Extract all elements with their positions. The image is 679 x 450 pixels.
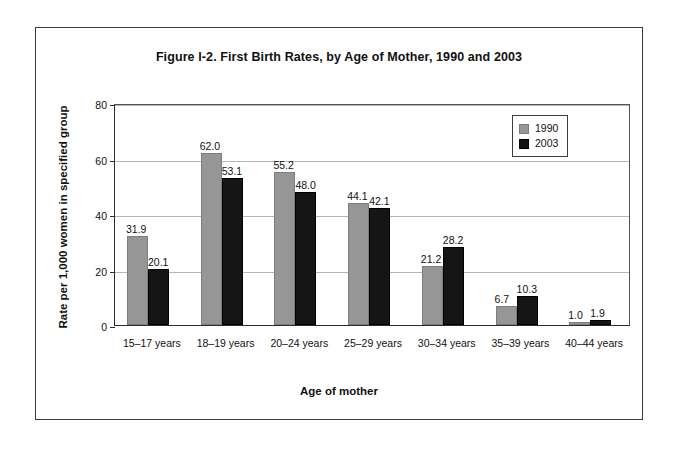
bar-1990[interactable] — [496, 306, 517, 325]
bar-value-label: 20.1 — [148, 257, 168, 268]
y-axis-tick-label: 60 — [75, 156, 107, 166]
bar-value-label: 6.7 — [495, 294, 510, 305]
bar-group: 62.053.1 — [189, 105, 263, 325]
x-axis-tick-label: 40–44 years — [546, 337, 642, 349]
bar-value-label: 31.9 — [126, 224, 146, 235]
bar-2003[interactable] — [590, 320, 611, 325]
bar-1990[interactable] — [201, 153, 222, 325]
bar-value-label: 1.9 — [590, 308, 605, 319]
bar-value-label: 44.1 — [347, 191, 367, 202]
bar-value-label: 28.2 — [443, 235, 463, 246]
bar-value-label: 53.1 — [222, 166, 242, 177]
bar-2003[interactable] — [443, 247, 464, 325]
legend-swatch-icon-2003 — [519, 139, 529, 149]
y-axis-tick-label: 0 — [75, 322, 107, 332]
bar-2003[interactable] — [222, 178, 243, 325]
bar-group: 55.248.0 — [262, 105, 336, 325]
bar-2003[interactable] — [148, 269, 169, 325]
bar-1990[interactable] — [422, 266, 443, 325]
legend-item-2003[interactable]: 2003 — [519, 136, 558, 151]
legend-swatch-icon-1990 — [519, 124, 529, 134]
bar-value-label: 10.3 — [517, 284, 537, 295]
legend-label-1990: 1990 — [535, 123, 558, 134]
legend-item-1990[interactable]: 1990 — [519, 121, 558, 136]
x-axis-title: Age of mother — [36, 385, 642, 397]
chart-title: Figure I-2. First Birth Rates, by Age of… — [36, 50, 642, 64]
bar-value-label: 21.2 — [421, 254, 441, 265]
bar-value-label: 1.0 — [568, 310, 583, 321]
bar-group: 31.920.1 — [115, 105, 189, 325]
plot-area: 020406080 31.920.162.053.155.248.044.142… — [114, 104, 630, 326]
bar-1990[interactable] — [569, 322, 590, 325]
bar-1990[interactable] — [274, 172, 295, 325]
legend-label-2003: 2003 — [535, 138, 558, 149]
bar-value-label: 55.2 — [273, 160, 293, 171]
y-axis-tick-label: 20 — [75, 267, 107, 277]
bar-2003[interactable] — [517, 296, 538, 325]
bar-2003[interactable] — [295, 192, 316, 325]
y-axis-title: Rate per 1,000 women in specified group — [57, 97, 69, 337]
bar-value-label: 48.0 — [295, 180, 315, 191]
bar-1990[interactable] — [348, 203, 369, 325]
y-axis-tick-label: 40 — [75, 211, 107, 221]
legend: 1990 2003 — [512, 115, 568, 157]
bar-1990[interactable] — [127, 236, 148, 325]
bar-value-label: 62.0 — [200, 141, 220, 152]
figure-frame: Figure I-2. First Birth Rates, by Age of… — [35, 27, 643, 420]
bar-value-label: 42.1 — [369, 196, 389, 207]
bar-group: 21.228.2 — [410, 105, 484, 325]
bar-2003[interactable] — [369, 208, 390, 325]
y-axis-tick-label: 80 — [75, 100, 107, 110]
bar-group: 44.142.1 — [336, 105, 410, 325]
y-axis-tick-mark — [110, 327, 115, 328]
